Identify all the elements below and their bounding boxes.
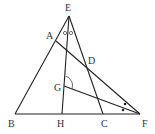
label-E: E [65,2,71,13]
label-H: H [57,118,64,129]
segment-EC [69,16,103,114]
label-A: A [46,30,54,41]
label-D: D [88,55,95,66]
angle-mark-circle-1 [63,31,66,34]
angle-mark-circle-2 [69,31,72,34]
label-F: F [142,118,148,129]
label-C: C [101,118,108,129]
geometry-diagram: E A D G B H C F [0,0,155,134]
angle-dot-2 [122,109,125,112]
label-G: G [54,82,61,93]
segment-EB [15,16,69,114]
segment-EH [62,16,69,114]
angle-dot-1 [124,103,127,106]
label-B: B [8,118,15,129]
